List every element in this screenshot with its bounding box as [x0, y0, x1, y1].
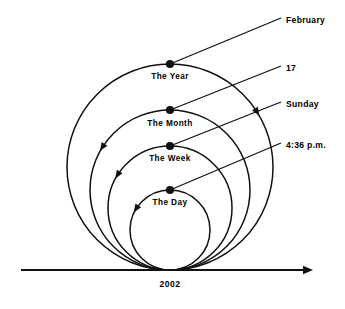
- callout-labels: February 17 Sunday 4:36 p.m.: [286, 15, 326, 150]
- ring-label-week: The Week: [149, 154, 191, 163]
- ring-label-month: The Month: [147, 119, 192, 128]
- node-dot-day: [166, 186, 174, 194]
- ring-week: [108, 146, 232, 270]
- leader-line-february: [170, 18, 281, 64]
- ring-label-year: The Year: [151, 72, 189, 81]
- diagram-canvas: The Year The Month The Week The Day Febr…: [0, 0, 345, 309]
- callout-label-seventeen: 17: [286, 63, 296, 73]
- ring-year: [67, 64, 273, 270]
- axis-year-label: 2002: [159, 279, 180, 289]
- node-dot-year: [166, 60, 174, 68]
- callout-leader-lines: [170, 18, 281, 190]
- axis-arrowhead-icon: [303, 266, 313, 274]
- callout-label-time: 4:36 p.m.: [286, 140, 326, 150]
- leader-line-time: [170, 143, 281, 190]
- timeline-axis: [21, 266, 313, 274]
- node-dot-month: [166, 106, 174, 114]
- ring-label-day: The Day: [152, 198, 187, 207]
- ring-month-direction-arrow-icon: [100, 142, 107, 151]
- nested-time-cycles-diagram: The Year The Month The Week The Day Febr…: [0, 0, 345, 309]
- node-dot-week: [166, 142, 174, 150]
- ring-day-direction-arrow-icon: [134, 204, 141, 213]
- callout-label-sunday: Sunday: [286, 99, 319, 109]
- callout-label-february: February: [286, 15, 325, 25]
- rings-group: [67, 64, 273, 270]
- ring-week-direction-arrow-icon: [115, 170, 122, 179]
